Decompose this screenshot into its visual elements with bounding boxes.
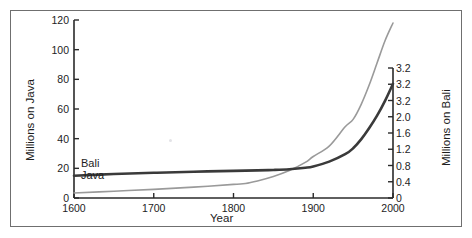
x-tick-label: 1600	[49, 203, 99, 214]
right-tick-label: 0.8	[396, 161, 411, 172]
x-tick-label: 1700	[129, 203, 179, 214]
left-tick-label: 100	[29, 45, 69, 56]
x-axis-title: Year	[210, 213, 233, 225]
figure-frame: 020406080100120 00.40.81.21.62.03.23.23.…	[10, 10, 462, 227]
right-tick-label: 3.2	[396, 79, 411, 90]
series-line-bali	[74, 84, 393, 176]
series-line-java	[74, 23, 393, 193]
right-tick-label: 3.2	[396, 63, 411, 74]
x-tick-label: 2000	[368, 203, 418, 214]
right-tick-label: 0.4	[396, 177, 411, 188]
right-tick-label: 1.6	[396, 128, 411, 139]
right-tick-label: 2.0	[396, 112, 411, 123]
scan-artifact-speck	[169, 139, 172, 142]
chart-figure: 020406080100120 00.40.81.21.62.03.23.23.…	[0, 0, 472, 238]
right-tick-label: 1.2	[396, 144, 411, 155]
left-tick-label: 120	[29, 15, 69, 26]
right-axis-title: Millions on Bali	[441, 89, 453, 166]
left-axis-title: Millions on Java	[25, 79, 37, 161]
series-label-bali: Bali	[81, 158, 99, 169]
right-tick-label: 3.2	[396, 96, 411, 107]
x-tick-label: 1900	[288, 203, 338, 214]
series-label-java: Java	[81, 170, 104, 181]
left-tick-label: 20	[29, 163, 69, 174]
